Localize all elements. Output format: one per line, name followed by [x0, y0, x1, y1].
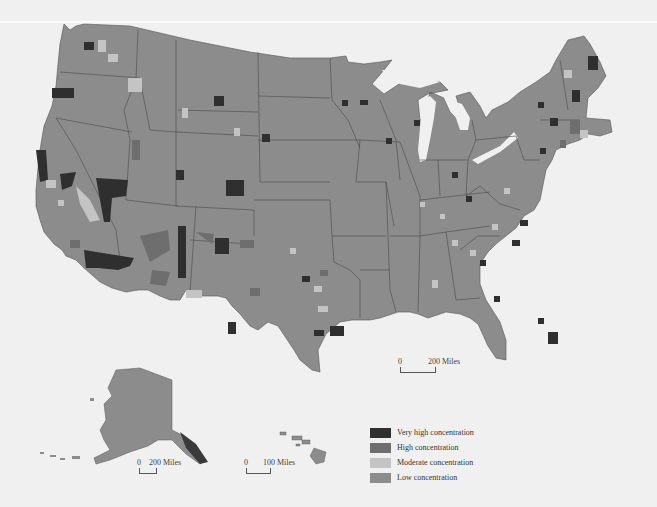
- us-map: [0, 0, 657, 507]
- legend-label: Low concentration: [397, 473, 457, 482]
- scale-bar-conus: 0 200 Miles: [400, 357, 436, 373]
- legend-item-very-high: Very high concentration: [370, 425, 474, 440]
- legend-swatch: [370, 428, 391, 438]
- scale-bar-hawaii: 0 100 Miles: [246, 458, 271, 474]
- scale-line: [139, 468, 157, 474]
- conus-landmass: [36, 24, 612, 372]
- scale-start: 0: [244, 458, 248, 467]
- legend-label: Moderate concentration: [397, 458, 473, 467]
- legend-swatch: [370, 458, 391, 468]
- legend-item-high: High concentration: [370, 440, 474, 455]
- scale-start: 0: [398, 357, 402, 366]
- scale-line: [246, 468, 271, 474]
- legend-label: High concentration: [397, 443, 459, 452]
- legend-swatch: [370, 443, 391, 453]
- scale-end: 100 Miles: [263, 458, 295, 467]
- legend-label: Very high concentration: [397, 428, 474, 437]
- legend-swatch: [370, 473, 391, 483]
- scale-start: 0: [137, 458, 141, 467]
- scale-line: [400, 367, 436, 373]
- scale-bar-alaska: 0 200 Miles: [139, 458, 157, 474]
- scale-end: 200 Miles: [149, 458, 181, 467]
- scale-end: 200 Miles: [428, 357, 460, 366]
- legend-item-moderate: Moderate concentration: [370, 455, 474, 470]
- aleutian-islands: [40, 398, 94, 460]
- legend-item-low: Low concentration: [370, 470, 474, 485]
- legend: Very high concentration High concentrati…: [370, 425, 474, 485]
